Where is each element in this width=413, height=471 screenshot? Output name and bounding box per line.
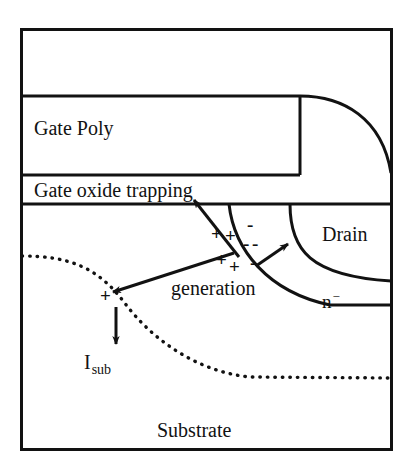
hole-charge-symbol-2: + <box>225 226 236 245</box>
isub-base: I <box>84 351 91 373</box>
substrate-current-label: Isub <box>84 352 111 377</box>
mosfet-diagram-figure: Gate Poly Gate oxide trapping Drain gene… <box>0 0 413 471</box>
hole-charge-symbol-3: + <box>216 250 227 269</box>
gate-oxide-trapping-label: Gate oxide trapping <box>34 180 193 200</box>
electron-charge-symbol-4: - <box>250 253 256 272</box>
substrate-label: Substrate <box>157 420 231 440</box>
hole-charge-symbol-1: + <box>211 224 222 243</box>
electron-charge-symbol-2: - <box>243 234 249 253</box>
electron-charge-symbol-3: - <box>252 234 258 253</box>
gate-poly-label: Gate Poly <box>34 118 113 138</box>
isub-subscript: sub <box>92 362 111 377</box>
generation-label: generation <box>171 278 255 298</box>
hole-charge-symbol-4: + <box>229 257 240 276</box>
hole-charge-at-depletion-edge: + <box>100 286 111 305</box>
n-minus-label: n− <box>322 290 340 311</box>
drain-label: Drain <box>322 224 368 244</box>
n-minus-superscript: − <box>333 289 340 304</box>
n-minus-base: n <box>322 291 332 312</box>
electron-charge-symbol-1: - <box>247 215 253 234</box>
